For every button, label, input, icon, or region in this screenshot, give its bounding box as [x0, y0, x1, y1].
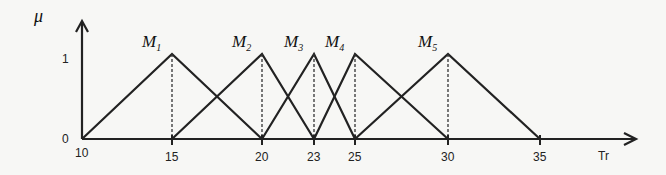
x-tick-25: 25 — [348, 150, 362, 164]
peak-dashed-lines — [172, 54, 448, 139]
axes — [76, 21, 636, 145]
label-m1: M1 — [141, 32, 161, 53]
membership-function-diagram: 10152023253035 M1M2M3M4M5 μ 1 0 Tr — [0, 0, 666, 175]
x-tick-10: 10 — [75, 146, 89, 160]
triangles — [82, 54, 540, 139]
x-tick-20: 20 — [255, 150, 269, 164]
label-m5: M5 — [417, 32, 437, 53]
series-labels: M1M2M3M4M5 — [141, 32, 437, 53]
label-m3: M3 — [283, 32, 303, 53]
label-m2: M2 — [231, 32, 251, 53]
x-tick-23: 23 — [307, 150, 321, 164]
x-tick-15: 15 — [165, 150, 179, 164]
label-m4: M4 — [324, 32, 344, 53]
y-tick-0: 0 — [62, 132, 69, 146]
triangle-m4 — [314, 54, 448, 139]
x-tick-35: 35 — [533, 150, 547, 164]
triangle-m2 — [172, 54, 314, 139]
y-tick-1: 1 — [62, 52, 69, 66]
y-axis-label: μ — [33, 6, 43, 26]
triangle-m3 — [262, 54, 355, 139]
x-tick-30: 30 — [441, 150, 455, 164]
x-axis-label: Tr — [598, 149, 609, 163]
